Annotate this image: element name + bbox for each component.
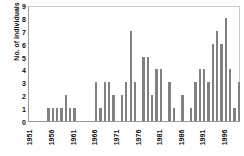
y-tick-label: 8 bbox=[13, 15, 26, 22]
x-tick-label: 1996 bbox=[210, 124, 240, 141]
y-axis-tick-labels: 0123456789 bbox=[13, 6, 26, 122]
y-tick-label: 3 bbox=[13, 80, 26, 87]
bar bbox=[72, 108, 76, 121]
y-tick-label: 5 bbox=[13, 54, 26, 61]
x-tick-label-text: 1996 bbox=[221, 130, 228, 146]
bar bbox=[172, 108, 176, 121]
y-tick-label: 6 bbox=[13, 41, 26, 48]
y-tick-label: 1 bbox=[13, 106, 26, 113]
y-tick-label: 9 bbox=[13, 3, 26, 10]
x-tick-label-text: 1971 bbox=[113, 130, 120, 146]
y-tick-label: 7 bbox=[13, 28, 26, 35]
bar bbox=[237, 82, 241, 121]
x-axis-tick-labels: 1951195619611966197119761981198619911996 bbox=[28, 124, 240, 156]
bar-series bbox=[29, 7, 239, 121]
bar bbox=[180, 95, 184, 121]
bar-chart: No. of individuals 0123456789 1951195619… bbox=[0, 0, 244, 156]
x-tick-label-text: 1966 bbox=[92, 130, 99, 146]
y-tick-label: 4 bbox=[13, 67, 26, 74]
x-tick-label-text: 1961 bbox=[70, 130, 77, 146]
bar bbox=[111, 95, 115, 121]
plot-area bbox=[28, 6, 240, 122]
x-tick-label-text: 1986 bbox=[178, 130, 185, 146]
x-tick-label-text: 1956 bbox=[48, 130, 55, 146]
x-tick-label-text: 1991 bbox=[200, 130, 207, 146]
bar bbox=[159, 69, 163, 121]
x-tick-label-text: 1981 bbox=[156, 130, 163, 146]
x-tick-label-text: 1976 bbox=[135, 130, 142, 146]
x-tick-label-text: 1951 bbox=[27, 130, 34, 146]
bar bbox=[133, 82, 137, 121]
y-tick-label: 2 bbox=[13, 93, 26, 100]
